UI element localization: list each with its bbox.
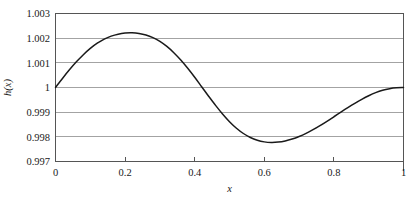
x-tick-label: 0 (53, 167, 58, 178)
y-tick-label: 1 (45, 82, 50, 93)
y-axis-title: h(x) (2, 79, 14, 96)
y-tick-label: 0.999 (26, 107, 50, 118)
x-tick-labels: 0 0.2 0.4 0.6 0.8 1 (53, 167, 406, 178)
y-tick-labels: 1.003 1.002 1.001 1 0.999 0.998 0.997 (26, 8, 50, 167)
line-chart: 1.003 1.002 1.001 1 0.999 0.998 0.997 0 … (0, 0, 416, 199)
x-tick-label: 0.6 (258, 167, 271, 178)
y-tick-label: 1.002 (26, 33, 50, 44)
x-tick-label: 0.4 (188, 167, 202, 178)
x-tick-label: 0.2 (119, 167, 132, 178)
y-tick-label: 0.998 (26, 132, 50, 143)
y-tick-label: 1.003 (26, 8, 50, 19)
x-axis-title: x (226, 183, 232, 194)
x-tick-label: 1 (401, 167, 406, 178)
y-tick-label: 0.997 (26, 156, 50, 167)
y-tick-label: 1.001 (26, 58, 50, 69)
x-tick-label: 0.8 (327, 167, 340, 178)
chart-figure: 1.003 1.002 1.001 1 0.999 0.998 0.997 0 … (0, 0, 416, 199)
